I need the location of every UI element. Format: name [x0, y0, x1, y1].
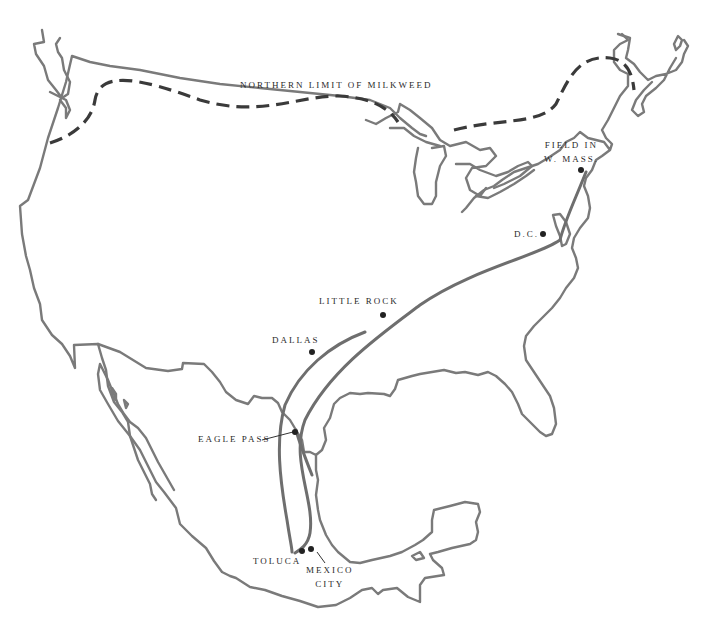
label-mexico-city: MEXICO CITY [306, 563, 354, 591]
label-mexico-city-line2: CITY [306, 577, 354, 591]
map-graphic [0, 0, 704, 630]
label-dc: D.C. [514, 227, 539, 241]
dot-dallas [309, 349, 315, 355]
coastline-continent [20, 34, 628, 607]
label-field-w-mass-line2: W. MASS. [544, 152, 599, 166]
label-toluca: TOLUCA [253, 554, 301, 568]
dot-field-w-mass [578, 167, 584, 173]
label-field-w-mass-line1: FIELD IN [544, 138, 599, 152]
route-eastern-flyway [295, 172, 586, 553]
label-eagle-pass: EAGLE PASS [198, 432, 270, 446]
coastline-yucatan-lagoon [412, 552, 424, 560]
dot-little-rock [380, 312, 386, 318]
label-mexico-city-line1: MEXICO [306, 563, 354, 577]
label-dallas: DALLAS [272, 333, 320, 347]
milkweed-limit-label: NORTHERN LIMIT OF MILKWEED [240, 78, 433, 92]
label-little-rock: LITTLE ROCK [319, 294, 399, 308]
migration-map: NORTHERN LIMIT OF MILKWEED FIELD IN W. M… [0, 0, 704, 630]
coastline-pacific-northwest [34, 30, 70, 118]
coastline-great-lakes [366, 104, 534, 204]
mexico-city-leader [317, 552, 325, 563]
dot-dc [540, 231, 546, 237]
milkweed-limit-east [454, 58, 634, 130]
label-field-w-mass: FIELD IN W. MASS. [544, 138, 599, 166]
dot-eagle-pass [292, 429, 298, 435]
dot-mexico-city [308, 546, 314, 552]
route-central-flyway [279, 332, 365, 552]
